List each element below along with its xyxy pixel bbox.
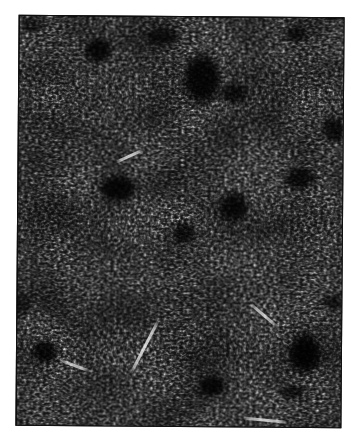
light-twig-streak bbox=[60, 359, 89, 372]
light-twig-streak bbox=[249, 302, 277, 327]
light-streaks-layer bbox=[16, 16, 343, 428]
light-twig-streak bbox=[115, 148, 144, 163]
photograph bbox=[15, 15, 344, 429]
page-background bbox=[0, 0, 359, 436]
light-twig-streak bbox=[129, 318, 160, 374]
light-twig-streak bbox=[242, 416, 287, 423]
